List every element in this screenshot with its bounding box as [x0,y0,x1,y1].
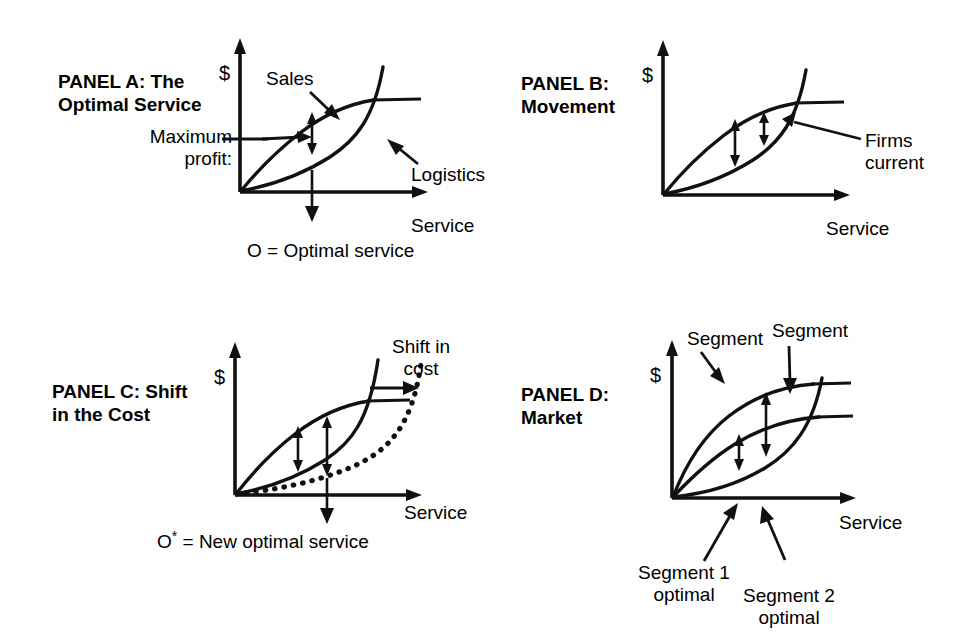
four-panel-figure: PANEL A: The Optimal Service Maximum pro… [0,0,978,638]
panel-b-current-gap-arrow [759,112,769,146]
panel-c-y-axis-label: $ [214,366,225,389]
panel-a-sales-curve [241,100,374,191]
panel-c-shifted-cost-curve [237,364,421,494]
panel-c-caption-base: O [157,531,172,552]
panel-c-shift-arrow [370,381,419,395]
panel-d-segment-right-label: Segment [772,320,848,342]
panel-c-shift-label: Shift in cost [375,336,467,380]
panel-c-new-gap-arrow [322,416,332,476]
panel-a: PANEL A: The Optimal Service Maximum pro… [0,0,489,300]
panel-d-segment1-optimal-label: Segment 1 optimal [624,562,744,606]
panel-c-caption: O* = New optimal service [157,528,369,553]
panel-b-firms-current-label: Firms current [865,130,924,174]
panel-b-sales-plateau [795,102,844,103]
panel-c-new-optimal-down-arrow [320,478,334,524]
panel-b: PANEL B: Movement [489,0,978,300]
panel-b-y-axis [657,40,669,195]
panel-d-segment-left-label: Segment [687,328,763,350]
panel-a-gap-arrow [307,112,317,155]
segment1-optimal-line1: Segment 1 [624,562,744,584]
panel-a-optimal-down-arrow [305,170,319,222]
panel-a-y-axis [234,38,246,192]
segment2-optimal-line1: Segment 2 [729,585,849,607]
firms-current-line2: current [865,152,924,174]
panel-a-x-axis [240,186,428,198]
panel-c-caption-rest: = New optimal service [177,531,369,552]
panel-d-segment-lower-plateau [817,416,853,417]
panel-d-x-axis-label: Service [839,512,902,534]
panel-d-segment1-callout-arrow [704,503,738,561]
panel-d-y-axis [666,340,678,498]
panel-c: PANEL C: Shift in the Cost [0,300,489,638]
panel-b-y-axis-label: $ [642,64,653,87]
segment1-optimal-line2: optimal [624,584,744,606]
panel-a-x-axis-label: Service [411,215,474,237]
panel-b-sales-curve [664,103,797,194]
panel-d-segment-left-pointer [701,352,725,384]
panel-a-y-axis-label: $ [219,62,230,85]
panel-b-x-axis [663,189,850,201]
segment2-optimal-line2: optimal [729,607,849,629]
panel-c-x-axis-label: Service [404,502,467,524]
panel-a-logistics-pointer [387,139,418,164]
panel-a-logistics-label: Logistics [411,164,485,186]
panel-d-segment-lower-curve [673,417,819,497]
panel-d-segment2-gap-arrow [761,392,771,457]
panel-c-sales-curve [236,401,369,494]
panel-d-segment2-callout-arrow [760,506,785,560]
firms-current-line1: Firms [865,130,924,152]
panel-c-sales-plateau [367,400,410,401]
panel-a-plot [0,0,489,300]
panel-b-x-axis-label: Service [826,218,889,240]
shift-line1: Shift in [375,336,467,358]
panel-d-segment2-optimal-label: Segment 2 optimal [729,585,849,629]
panel-d-segment-upper-plateau [812,383,851,384]
shift-line2: cost [375,358,467,380]
panel-a-sales-label: Sales [266,68,314,90]
panel-a-caption: O = Optimal service [247,240,414,262]
panel-a-max-profit-arrow [262,131,312,143]
panel-b-firms-current-pointer [782,112,861,139]
panel-d-y-axis-label: $ [650,364,661,387]
panel-c-y-axis [229,342,241,495]
panel-a-sales-plateau [372,99,421,100]
panel-d: PANEL D: Market [489,300,978,638]
